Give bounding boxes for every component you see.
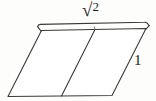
lid-outer-edge xyxy=(38,22,150,26)
lid-right-connector xyxy=(146,26,149,29)
figure-canvas xyxy=(0,0,156,101)
label-right-length: 1 xyxy=(134,53,142,68)
radical-expression: √2 xyxy=(82,0,102,19)
lid-left-connector xyxy=(38,27,41,31)
label-top-length: √2 xyxy=(82,0,102,19)
radicand-value: 2 xyxy=(91,0,101,13)
parallelogram-outline xyxy=(8,29,146,97)
geometry-figure: √2 1 xyxy=(0,0,156,101)
